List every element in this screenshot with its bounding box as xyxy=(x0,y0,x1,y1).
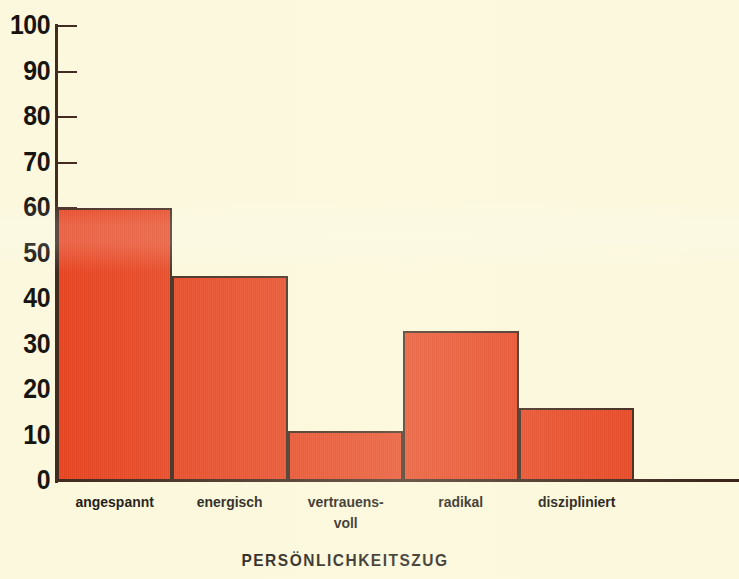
y-axis-tick-label: 80 xyxy=(0,103,50,130)
y-axis-line xyxy=(55,24,58,483)
y-axis-tick xyxy=(57,116,77,118)
x-axis-category-label-line: angespannt xyxy=(76,493,154,510)
y-axis-tick-label: 100 xyxy=(0,12,50,39)
x-axis-category-label-line: diszipliniert xyxy=(538,493,616,510)
y-axis-tick-label: 70 xyxy=(0,149,50,176)
y-axis-tick-label: 10 xyxy=(0,422,50,449)
y-axis-tick-label: 90 xyxy=(0,58,50,85)
bar-texture xyxy=(174,278,285,479)
y-axis-tick-label: 40 xyxy=(0,285,50,312)
bar-texture xyxy=(59,210,170,479)
x-axis-category-label: diszipliniert xyxy=(524,491,628,512)
x-axis-line xyxy=(55,479,739,482)
y-axis-tick xyxy=(57,71,77,73)
bar xyxy=(403,331,518,481)
bar-texture xyxy=(290,433,401,479)
y-axis-tick-label: 0 xyxy=(0,467,50,494)
bar xyxy=(57,208,172,481)
x-axis-category-label: radikal xyxy=(409,491,513,512)
bar-texture xyxy=(405,333,516,479)
x-axis-category-label-line: voll xyxy=(294,512,398,533)
x-axis-category-label: angespannt xyxy=(63,491,167,512)
y-axis-tick xyxy=(57,25,77,27)
bar xyxy=(288,431,403,481)
bar-texture xyxy=(521,410,632,479)
x-axis-category-label-line: radikal xyxy=(438,493,483,510)
y-axis-tick-label: 50 xyxy=(0,240,50,267)
x-axis-category-label-line: energisch xyxy=(197,493,263,510)
bar xyxy=(172,276,287,481)
bar xyxy=(519,408,634,481)
x-axis-category-label-line: vertrauens- xyxy=(307,493,383,510)
x-axis-category-label: energisch xyxy=(178,491,282,512)
bar-chart-figure: 0102030405060708090100 angespanntenergis… xyxy=(0,0,739,579)
y-axis-tick-label: 20 xyxy=(0,376,50,403)
x-axis-title: PERSÖNLICHKEITSZUG xyxy=(21,551,670,570)
y-axis-tick-label: 30 xyxy=(0,331,50,358)
y-axis-tick xyxy=(57,162,77,164)
plot-area xyxy=(57,26,739,481)
y-axis-tick-label: 60 xyxy=(0,194,50,221)
x-axis-category-label: vertrauens-voll xyxy=(294,491,398,533)
